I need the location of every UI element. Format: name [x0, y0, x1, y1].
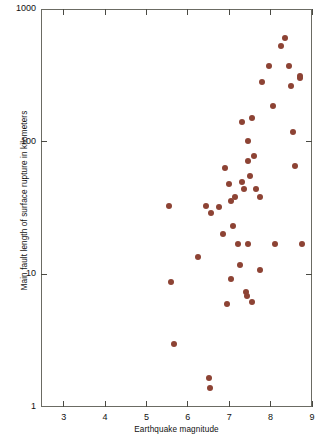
- scatter-plot-figure: Main fault length of surface rupture in …: [0, 0, 320, 443]
- data-point: [239, 119, 245, 125]
- data-point: [282, 35, 288, 41]
- data-point: [270, 103, 276, 109]
- data-point: [168, 279, 174, 285]
- data-point: [259, 79, 265, 85]
- data-point: [278, 43, 284, 49]
- data-point: [241, 186, 247, 192]
- data-point: [251, 153, 257, 159]
- data-point: [290, 129, 296, 135]
- data-point: [216, 204, 222, 210]
- data-point: [247, 173, 253, 179]
- data-point: [286, 63, 292, 69]
- data-point: [166, 203, 172, 209]
- data-point: [292, 163, 298, 169]
- data-point: [222, 165, 228, 171]
- data-point: [208, 210, 214, 216]
- data-point: [230, 223, 236, 229]
- data-point: [203, 203, 209, 209]
- data-point: [253, 186, 259, 192]
- data-point: [245, 158, 251, 164]
- data-point: [245, 138, 251, 144]
- data-points-layer: [0, 0, 320, 443]
- data-point: [244, 293, 250, 299]
- data-point: [224, 301, 230, 307]
- data-point: [299, 241, 305, 247]
- data-point: [220, 231, 226, 237]
- data-point: [249, 299, 255, 305]
- data-point: [249, 115, 255, 121]
- data-point: [257, 194, 263, 200]
- data-point: [297, 73, 303, 79]
- data-point: [226, 181, 232, 187]
- data-point: [228, 276, 234, 282]
- data-point: [171, 341, 177, 347]
- data-point: [266, 63, 272, 69]
- data-point: [239, 179, 245, 185]
- data-point: [272, 241, 278, 247]
- data-point: [207, 385, 213, 391]
- data-point: [232, 194, 238, 200]
- data-point: [206, 375, 212, 381]
- data-point: [237, 262, 243, 268]
- data-point: [257, 267, 263, 273]
- data-point: [195, 254, 201, 260]
- data-point: [235, 241, 241, 247]
- data-point: [245, 241, 251, 247]
- data-point: [288, 83, 294, 89]
